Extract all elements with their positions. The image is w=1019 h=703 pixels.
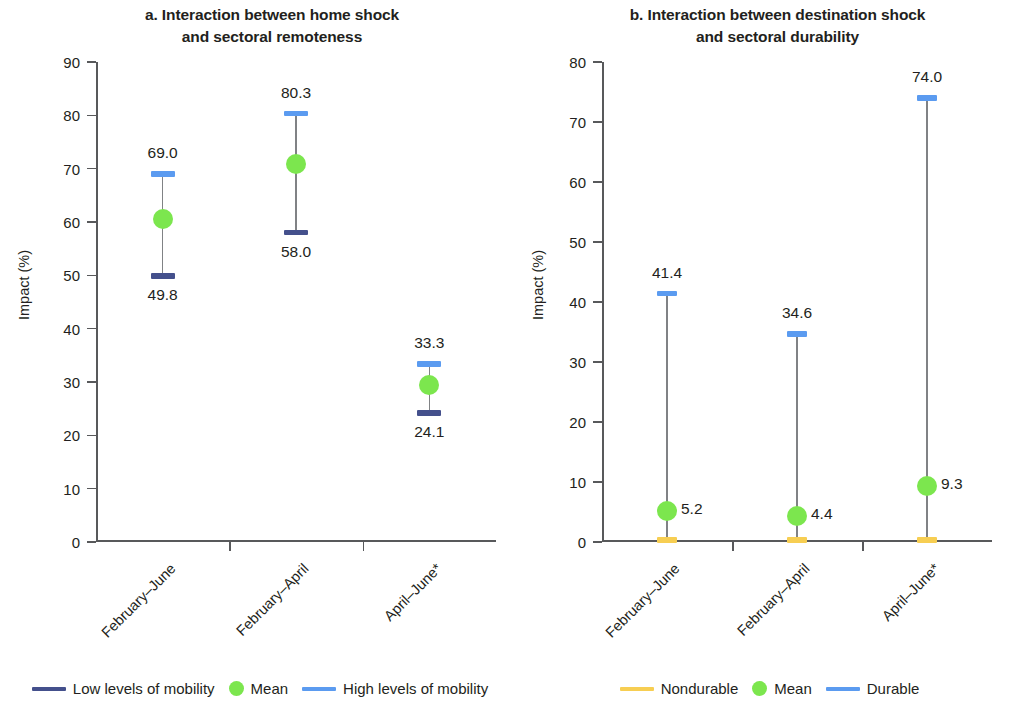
legend-line-icon-nondurable (620, 687, 654, 691)
error-bar-stem (926, 98, 928, 540)
y-tick-label: 40 (38, 320, 80, 337)
panel-a-y-axis-label: Impact (%) (16, 250, 32, 320)
mean-marker (787, 506, 807, 526)
upper-cap-marker (151, 171, 175, 177)
lower-cap-marker (787, 537, 807, 543)
value-label-lower: 58.0 (281, 243, 311, 261)
y-tick-label: 60 (544, 174, 586, 191)
lower-cap-marker (151, 273, 175, 279)
legend-dot-icon-mean (229, 681, 244, 696)
panel-b-title: b. Interaction between destination shock… (520, 4, 1019, 48)
x-category-label: April–June* (342, 560, 445, 663)
value-label-mean: 4.4 (811, 505, 833, 523)
x-category-label: February–April (208, 560, 311, 663)
y-tick-label: 60 (38, 214, 80, 231)
panel-b-legend: Nondurable Mean Durable (520, 680, 1019, 697)
lower-cap-marker (657, 537, 677, 543)
y-tick-mark (593, 301, 602, 303)
mean-marker (917, 476, 937, 496)
legend-label-durable: Durable (867, 680, 920, 697)
value-label-mean: 9.3 (941, 475, 963, 493)
legend-item-durable[interactable]: Durable (826, 680, 920, 697)
y-tick-mark (593, 421, 602, 423)
y-tick-mark (87, 221, 96, 223)
y-tick-mark (87, 275, 96, 277)
x-tick-mark (363, 542, 365, 551)
value-label-lower: 24.1 (414, 423, 444, 441)
panel-a-x-axis (96, 540, 496, 542)
x-tick-mark (229, 542, 231, 551)
legend-label-mean: Mean (251, 680, 289, 697)
upper-cap-marker (917, 95, 937, 101)
y-tick-label: 0 (38, 534, 80, 551)
y-tick-mark (593, 481, 602, 483)
legend-label-high-mobility: High levels of mobility (343, 680, 488, 697)
lower-cap-marker (417, 410, 441, 416)
legend-dot-icon-mean (752, 681, 767, 696)
y-tick-label: 80 (544, 54, 586, 71)
y-tick-mark (87, 115, 96, 117)
value-label-upper: 80.3 (281, 84, 311, 102)
y-tick-mark (87, 435, 96, 437)
y-tick-mark (87, 381, 96, 383)
value-label-upper: 69.0 (148, 144, 178, 162)
value-label-mean: 5.2 (681, 500, 703, 518)
legend-item-low-mobility[interactable]: Low levels of mobility (32, 680, 215, 697)
y-tick-mark (593, 361, 602, 363)
y-tick-label: 0 (544, 534, 586, 551)
x-tick-mark (732, 542, 734, 551)
legend-label-nondurable: Nondurable (661, 680, 739, 697)
y-tick-label: 30 (544, 354, 586, 371)
upper-cap-marker (787, 331, 807, 337)
mean-marker (153, 209, 173, 229)
y-tick-label: 20 (38, 427, 80, 444)
panel-b-title-line2: and sectoral durability (696, 28, 859, 45)
y-tick-label: 50 (544, 234, 586, 251)
y-tick-mark (87, 328, 96, 330)
panel-a: a. Interaction between home shock and se… (0, 0, 520, 703)
y-tick-label: 30 (38, 374, 80, 391)
mean-marker (657, 501, 677, 521)
y-tick-label: 80 (38, 107, 80, 124)
legend-line-icon-durable (826, 687, 860, 691)
y-tick-label: 40 (544, 294, 586, 311)
legend-item-mean[interactable]: Mean (229, 680, 289, 697)
x-category-label: February–June (75, 560, 178, 663)
legend-item-nondurable[interactable]: Nondurable (620, 680, 739, 697)
legend-line-icon-low-mobility (32, 687, 66, 691)
x-category-label: February–June (579, 560, 682, 663)
y-tick-mark (593, 121, 602, 123)
panel-b-title-line1: b. Interaction between destination shock (630, 6, 926, 23)
x-category-label: April–June* (839, 560, 942, 663)
value-label-upper: 33.3 (414, 334, 444, 352)
y-tick-mark (87, 61, 96, 63)
panel-b-y-axis (602, 62, 604, 542)
y-tick-label: 10 (38, 480, 80, 497)
y-tick-mark (87, 488, 96, 490)
panel-a-legend: Low levels of mobility Mean High levels … (0, 680, 520, 697)
panel-b: b. Interaction between destination shock… (520, 0, 1019, 703)
panel-a-title-line2: and sectoral remoteness (182, 28, 362, 45)
value-label-upper: 74.0 (912, 68, 942, 86)
upper-cap-marker (657, 291, 677, 297)
legend-label-mean: Mean (774, 680, 812, 697)
y-tick-label: 90 (38, 54, 80, 71)
y-tick-mark (593, 181, 602, 183)
legend-label-low-mobility: Low levels of mobility (73, 680, 215, 697)
y-tick-label: 20 (544, 414, 586, 431)
y-tick-mark (593, 541, 602, 543)
legend-item-mean[interactable]: Mean (752, 680, 812, 697)
y-tick-mark (87, 541, 96, 543)
y-tick-label: 10 (544, 474, 586, 491)
mean-marker (419, 375, 439, 395)
legend-item-high-mobility[interactable]: High levels of mobility (302, 680, 488, 697)
value-label-lower: 49.8 (148, 286, 178, 304)
panel-a-title: a. Interaction between home shock and se… (0, 4, 520, 48)
panel-a-y-axis (96, 62, 98, 542)
y-tick-mark (593, 61, 602, 63)
value-label-upper: 34.6 (782, 304, 812, 322)
x-tick-mark (862, 542, 864, 551)
upper-cap-marker (284, 111, 308, 117)
upper-cap-marker (417, 361, 441, 367)
value-label-upper: 41.4 (652, 264, 682, 282)
